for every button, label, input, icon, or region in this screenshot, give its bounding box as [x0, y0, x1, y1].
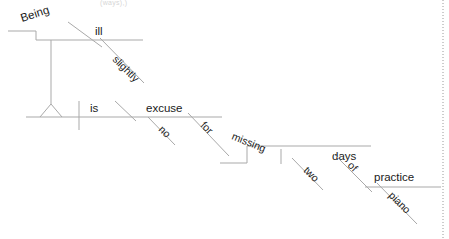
word-missing: missing — [230, 130, 268, 155]
word-excuse: excuse — [146, 102, 182, 114]
word-practice: practice — [374, 171, 414, 183]
gerund-pedestal-triangle — [40, 104, 62, 117]
word-no: no — [157, 123, 174, 140]
word-is: is — [90, 102, 99, 114]
word-two: two — [302, 164, 322, 184]
sentence-diagram-canvas: (ways),) Being ill slightly is excuse no — [0, 0, 449, 239]
word-being: Being — [19, 3, 51, 24]
faint-top-caption: (ways),) — [100, 0, 127, 7]
word-slightly: slightly — [111, 53, 143, 85]
predicate-nominative-slant — [115, 101, 136, 121]
word-piano: piano — [387, 189, 414, 216]
word-ill: ill — [95, 25, 103, 37]
sentence-diagram: (ways),) Being ill slightly is excuse no — [0, 0, 449, 239]
word-for: for — [199, 119, 217, 137]
